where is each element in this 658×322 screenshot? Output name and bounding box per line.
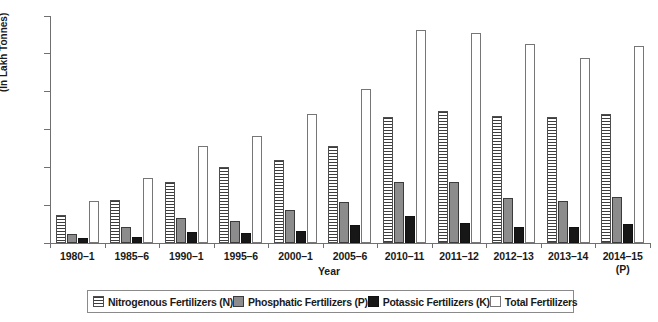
bar-group (105, 16, 160, 243)
bar-s-p[interactable] (503, 198, 513, 243)
legend-label: Total Fertilizers (505, 296, 578, 308)
legend-swatch-s-k (368, 296, 379, 307)
bar-s-t[interactable] (416, 30, 426, 243)
bar-s-n[interactable] (274, 160, 284, 243)
bar-s-p[interactable] (176, 218, 186, 243)
bar-group (268, 16, 323, 243)
x-axis-category-label: 1990–1 (159, 250, 214, 262)
bar-s-p[interactable] (67, 234, 77, 243)
bar-s-n[interactable] (601, 114, 611, 243)
legend-item[interactable]: Potassic Fertilizers (K) (368, 296, 490, 308)
bar-s-t[interactable] (361, 89, 371, 243)
bar-s-t[interactable] (307, 114, 317, 243)
bar-s-k[interactable] (132, 237, 142, 243)
bar-group (432, 16, 487, 243)
bar-s-t[interactable] (252, 136, 262, 243)
legend-swatch-s-p (233, 296, 244, 307)
bar-s-k[interactable] (569, 227, 579, 243)
bar-s-n[interactable] (328, 146, 338, 243)
bar-s-k[interactable] (350, 225, 360, 243)
bar-s-p[interactable] (230, 221, 240, 243)
legend-label: Nitrogenous Fertilizers (N) (108, 296, 233, 308)
x-axis-group-separator (105, 243, 106, 248)
x-axis-group-separator (486, 243, 487, 248)
x-axis-title: Year (0, 265, 658, 277)
bar-group-bars (595, 16, 650, 243)
bar-s-k[interactable] (187, 232, 197, 243)
bar-group (159, 16, 214, 243)
bar-s-n[interactable] (165, 182, 175, 243)
bar-group (50, 16, 105, 243)
bar-s-n[interactable] (56, 215, 66, 243)
bar-s-k[interactable] (460, 223, 470, 243)
bar-s-t[interactable] (525, 44, 535, 243)
bar-group-bars (159, 16, 214, 243)
bar-s-k[interactable] (623, 224, 633, 243)
bar-s-t[interactable] (471, 33, 481, 243)
bar-group (377, 16, 432, 243)
legend-swatch-s-n (93, 296, 104, 307)
bar-s-k[interactable] (78, 238, 88, 243)
bar-s-p[interactable] (285, 210, 295, 243)
bar-s-n[interactable] (219, 167, 229, 243)
bar-s-n[interactable] (110, 200, 120, 243)
x-axis-category-label: 1985–6 (105, 250, 160, 262)
bar-s-k[interactable] (514, 227, 524, 243)
bar-s-p[interactable] (339, 202, 349, 243)
bar-s-t[interactable] (89, 201, 99, 243)
y-axis-title: (In Lakh Tonnes) (0, 13, 9, 92)
x-axis-group-separator (377, 243, 378, 248)
x-axis-category-label: 2005–6 (323, 250, 378, 262)
bar-s-p[interactable] (121, 227, 131, 243)
bar-s-k[interactable] (405, 216, 415, 243)
bar-group-bars (432, 16, 487, 243)
bar-s-t[interactable] (143, 178, 153, 243)
x-axis-category-label: 1995–6 (214, 250, 269, 262)
legend-label: Potassic Fertilizers (K) (383, 296, 490, 308)
legend-label: Phosphatic Fertilizers (P) (248, 296, 368, 308)
x-axis-group-separator (268, 243, 269, 248)
x-axis-category-label: 2013–14 (541, 250, 596, 262)
x-axis-category-label: 2000–1 (268, 250, 323, 262)
x-axis-group-separator (650, 243, 651, 248)
bar-s-n[interactable] (547, 117, 557, 243)
bar-s-p[interactable] (612, 197, 622, 243)
x-axis-category-label: 2010–11 (377, 250, 432, 262)
bar-s-t[interactable] (634, 46, 644, 243)
bar-group-bars (50, 16, 105, 243)
legend-item[interactable]: Total Fertilizers (490, 296, 578, 308)
bar-s-p[interactable] (449, 182, 459, 243)
bar-s-n[interactable] (383, 117, 393, 243)
bar-group (323, 16, 378, 243)
x-axis-group-separator (541, 243, 542, 248)
x-axis-group-separator (50, 243, 51, 248)
bar-s-k[interactable] (241, 233, 251, 243)
bar-s-n[interactable] (438, 111, 448, 243)
bar-group-bars (268, 16, 323, 243)
x-axis-group-separator (432, 243, 433, 248)
bar-s-n[interactable] (492, 116, 502, 243)
bar-s-p[interactable] (394, 182, 404, 243)
x-axis-category-label: 1980–1 (50, 250, 105, 262)
bar-group (214, 16, 269, 243)
bar-group-bars (541, 16, 596, 243)
bar-group (541, 16, 596, 243)
bar-group-bars (323, 16, 378, 243)
bar-s-t[interactable] (198, 146, 208, 243)
x-axis-group-separator (595, 243, 596, 248)
bar-s-k[interactable] (296, 231, 306, 243)
bar-group (595, 16, 650, 243)
bar-group-bars (486, 16, 541, 243)
x-axis-line (50, 243, 650, 244)
bar-s-t[interactable] (580, 58, 590, 243)
bar-group-bars (105, 16, 160, 243)
legend-swatch-s-t (490, 296, 501, 307)
x-axis-group-separator (214, 243, 215, 248)
chart-legend: Nitrogenous Fertilizers (N)Phosphatic Fe… (87, 290, 574, 313)
bar-group (486, 16, 541, 243)
legend-item[interactable]: Nitrogenous Fertilizers (N) (93, 296, 233, 308)
bar-group-bars (377, 16, 432, 243)
x-axis-category-label: 2011–12 (432, 250, 487, 262)
bar-s-p[interactable] (558, 201, 568, 243)
legend-item[interactable]: Phosphatic Fertilizers (P) (233, 296, 368, 308)
